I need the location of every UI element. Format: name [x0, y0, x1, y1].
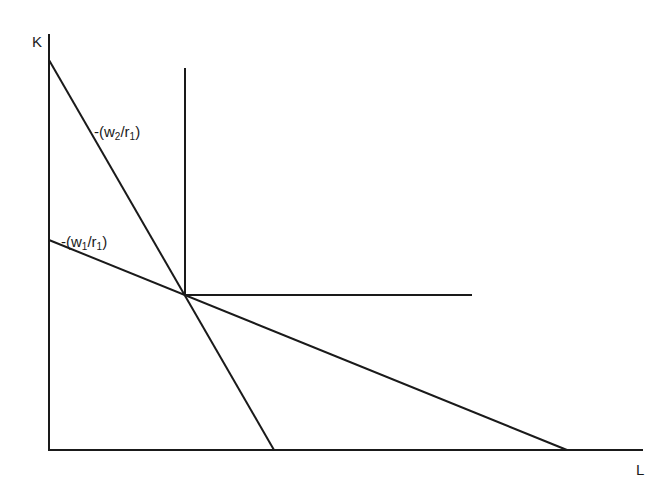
steep-line-slope-label: -(w2/r1)	[94, 124, 140, 142]
flat-line-slope-label: -(w1/r1)	[61, 234, 107, 252]
isocost-line-steep	[49, 60, 274, 450]
l-axis-label: L	[636, 462, 644, 477]
k-axis-label: K	[32, 34, 42, 49]
isocost-line-flat	[49, 240, 567, 450]
